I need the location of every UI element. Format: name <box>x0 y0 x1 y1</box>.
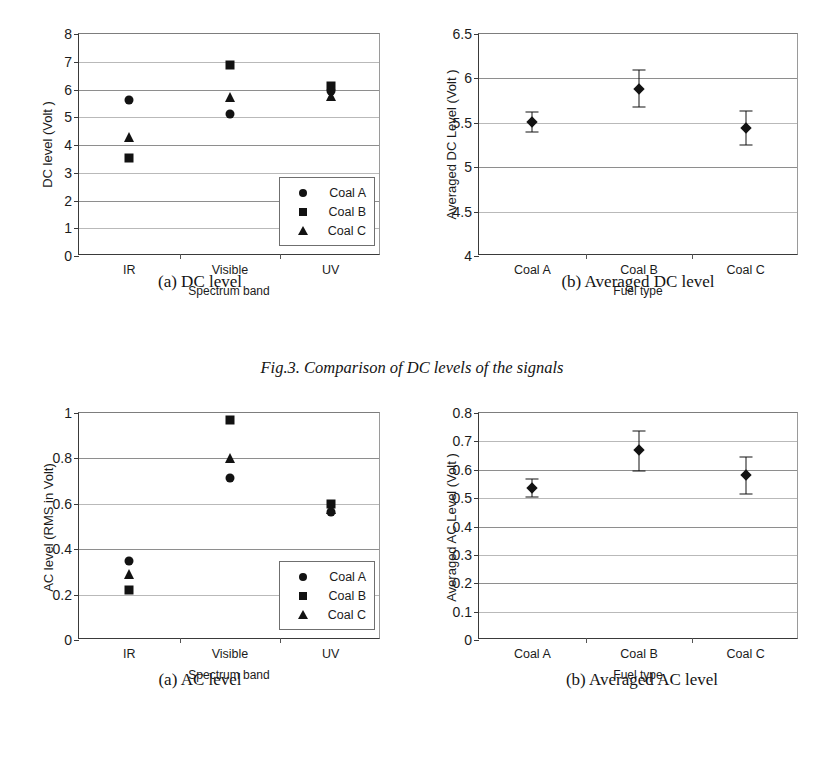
y-tick-mark <box>474 167 479 168</box>
y-tick-label: 5 <box>464 159 472 175</box>
x-tick-label: Coal A <box>514 647 551 661</box>
y-tick-mark <box>74 256 79 257</box>
data-point-diamond <box>633 444 644 455</box>
legend: Coal ACoal BCoal C <box>279 177 375 246</box>
plot-area-dc-level: Spectrum band 012345678IRVisibleUVCoal A… <box>78 33 380 255</box>
y-tick-mark <box>474 413 479 414</box>
y-tick-mark <box>474 441 479 442</box>
y-tick-mark <box>74 549 79 550</box>
panel-averaged-dc-level: Fuel type 44.555.566.5Coal ACoal BCoal C… <box>410 0 824 300</box>
plot-area-averaged-dc-level: Fuel type 44.555.566.5Coal ACoal BCoal C <box>478 33 798 255</box>
data-point-square <box>226 60 235 69</box>
y-tick-mark <box>474 640 479 641</box>
data-point-square <box>125 154 134 163</box>
y-tick-mark <box>474 498 479 499</box>
x-tick-label: Coal B <box>620 647 658 661</box>
y-tick-mark <box>74 62 79 63</box>
data-point-triangle <box>124 132 134 142</box>
y-tick-label: 3 <box>64 165 72 181</box>
y-tick-label: 2 <box>64 193 72 209</box>
y-tick-label: 0 <box>464 632 472 648</box>
legend-label: Coal A <box>318 570 366 584</box>
y-axis-title-averaged-ac-level: Averaged AC Level (Volt ) <box>444 413 459 643</box>
y-tick-mark <box>74 173 79 174</box>
panel-dc-level: Spectrum band 012345678IRVisibleUVCoal A… <box>0 0 410 300</box>
y-tick-label: 0 <box>64 248 72 264</box>
y-tick-mark <box>474 34 479 35</box>
error-bar-cap <box>633 431 646 432</box>
legend-label: Coal C <box>318 608 366 622</box>
x-tick-label: UV <box>322 263 339 277</box>
legend-label: Coal A <box>318 186 366 200</box>
gridline <box>479 527 797 528</box>
y-tick-mark <box>74 228 79 229</box>
data-point-diamond <box>740 470 751 481</box>
data-point-diamond <box>527 483 538 494</box>
data-point-square <box>326 82 335 91</box>
y-tick-mark <box>74 458 79 459</box>
y-tick-mark <box>474 527 479 528</box>
data-point-square <box>226 415 235 424</box>
x-tick-mark <box>280 638 281 643</box>
y-tick-label: 4 <box>64 137 72 153</box>
gridline <box>79 173 379 174</box>
x-tick-label: UV <box>322 647 339 661</box>
y-tick-label: 5 <box>64 109 72 125</box>
y-tick-mark <box>474 583 479 584</box>
legend-item-coal-b: Coal B <box>288 586 366 605</box>
x-tick-mark <box>692 638 693 643</box>
error-bar-cap <box>633 70 646 71</box>
legend: Coal ACoal BCoal C <box>279 561 375 630</box>
x-tick-label: Coal A <box>514 263 551 277</box>
legend-label: Coal C <box>318 224 366 238</box>
x-tick-mark <box>692 254 693 259</box>
subcaption-dc-level: (a) DC level <box>158 272 242 292</box>
y-tick-mark <box>74 504 79 505</box>
figure-caption: Fig.3. Comparison of DC levels of the si… <box>261 358 564 378</box>
y-axis-title-dc-level: DC level (Volt ) <box>40 60 55 230</box>
y-tick-label: 7 <box>64 54 72 70</box>
x-tick-mark <box>180 254 181 259</box>
error-bar-cap <box>526 112 539 113</box>
error-bar-cap <box>526 478 539 479</box>
legend-item-coal-a: Coal A <box>288 567 366 586</box>
y-tick-label: 1 <box>64 405 72 421</box>
triangle-icon <box>288 226 318 235</box>
circle-icon <box>288 189 318 197</box>
x-tick-label: Coal C <box>727 263 765 277</box>
data-point-triangle <box>124 569 134 579</box>
data-point-circle <box>226 473 235 482</box>
x-tick-mark <box>180 638 181 643</box>
y-axis-title-averaged-dc-level: Averaged DC Level (Volt ) <box>444 30 459 260</box>
y-tick-mark <box>74 117 79 118</box>
y-tick-mark <box>74 145 79 146</box>
x-tick-label: Coal C <box>727 647 765 661</box>
gridline <box>479 612 797 613</box>
gridline <box>479 555 797 556</box>
plot-area-ac-level: Spectrum band 00.20.40.60.81IRVisibleUVC… <box>78 412 380 639</box>
figure-page: Spectrum band 012345678IRVisibleUVCoal A… <box>0 0 824 771</box>
error-bar-cap <box>739 456 752 457</box>
data-point-diamond <box>740 122 751 133</box>
legend-label: Coal B <box>318 589 366 603</box>
error-bar-cap <box>739 493 752 494</box>
x-tick-label: IR <box>123 647 136 661</box>
y-tick-mark <box>74 201 79 202</box>
square-icon <box>288 592 318 600</box>
y-tick-mark <box>474 256 479 257</box>
gridline <box>479 167 797 168</box>
gridline <box>479 212 797 213</box>
subcaption-averaged-dc-level: (b) Averaged DC level <box>561 272 714 292</box>
square-icon <box>288 208 318 216</box>
gridline <box>479 583 797 584</box>
x-tick-mark <box>586 254 587 259</box>
data-point-circle <box>125 556 134 565</box>
y-tick-label: 6 <box>464 70 472 86</box>
gridline <box>79 549 379 550</box>
y-tick-mark <box>474 470 479 471</box>
y-tick-mark <box>474 78 479 79</box>
y-tick-mark <box>74 34 79 35</box>
legend-item-coal-a: Coal A <box>288 183 366 202</box>
y-tick-label: 8 <box>64 26 72 42</box>
y-tick-mark <box>474 612 479 613</box>
